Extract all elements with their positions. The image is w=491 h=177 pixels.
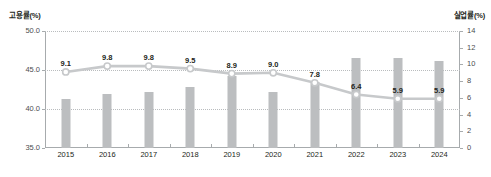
line-marker: [436, 96, 442, 102]
line-marker: [146, 63, 152, 69]
x-axis-label: 2017: [140, 150, 157, 159]
line-marker: [63, 69, 69, 75]
line-point-label: 8.9: [227, 61, 237, 69]
chart-container: 고용률(%) 실업률(%) 50.045.040.035.0 141210864…: [0, 0, 491, 177]
right-axis-tickmark: [460, 131, 463, 132]
right-axis-tickmark: [460, 31, 463, 32]
right-axis-tickmark: [460, 64, 463, 65]
right-axis-tickmark: [460, 115, 463, 116]
x-axis-label: 2022: [348, 150, 365, 159]
right-axis-tickmark: [460, 98, 463, 99]
line-point-label: 7.8: [310, 70, 320, 78]
right-axis-tickmark: [460, 148, 463, 149]
x-axis-label: 2016: [99, 150, 116, 159]
left-axis-tick-label: 40.0: [25, 105, 40, 113]
left-axis-tickmark: [42, 148, 45, 149]
right-axis-tickmark: [460, 48, 463, 49]
right-axis-title: 실업률(%): [454, 9, 485, 20]
line-path: [66, 66, 440, 99]
line-marker: [104, 63, 110, 69]
x-axis-label: 2019: [223, 150, 240, 159]
right-axis-tick-label: 0: [467, 144, 471, 152]
x-axis-tickmark: [419, 144, 420, 148]
x-axis-label: 2023: [389, 150, 406, 159]
right-axis-tick-label: 4: [467, 111, 471, 119]
x-axis-tickmark: [128, 144, 129, 148]
line-marker: [270, 70, 276, 76]
x-axis-label: 2015: [57, 150, 74, 159]
line-point-label: 9.8: [102, 54, 112, 62]
x-axis-label: 2018: [182, 150, 199, 159]
x-axis-tickmark: [253, 144, 254, 148]
x-axis-label: 2021: [306, 150, 323, 159]
x-axis-label: 2020: [265, 150, 282, 159]
line-marker: [229, 71, 235, 77]
right-axis-tick-label: 2: [467, 127, 471, 135]
x-axis-tickmark: [87, 144, 88, 148]
right-axis-tick-label: 12: [467, 44, 475, 52]
right-axis-tick-label: 14: [467, 27, 475, 35]
right-axis-tick-label: 8: [467, 77, 471, 85]
line-point-label: 9.5: [185, 56, 195, 64]
line-marker: [312, 80, 318, 86]
x-axis-labels: 2015201620172018201920202021202220232024: [45, 150, 460, 164]
line-marker: [187, 66, 193, 72]
left-axis-tick-label: 45.0: [25, 66, 40, 74]
x-axis-tickmark: [294, 144, 295, 148]
left-axis-title: 고용률(%): [9, 9, 40, 20]
x-axis-tickmark: [211, 144, 212, 148]
line-point-label: 9.1: [61, 59, 71, 67]
x-axis-tickmark: [377, 144, 378, 148]
line-point-label: 5.9: [393, 86, 403, 94]
line-point-label: 9.8: [144, 54, 154, 62]
line-point-label: 5.9: [434, 86, 444, 94]
line-point-label: 9.0: [268, 60, 278, 68]
left-axis-tick-label: 50.0: [25, 27, 40, 35]
line-marker: [353, 91, 359, 97]
left-axis-tick-label: 35.0: [25, 144, 40, 152]
x-axis-label: 2024: [431, 150, 448, 159]
right-axis-tickmark: [460, 81, 463, 82]
right-axis-tick-label: 6: [467, 94, 471, 102]
plot-area: 50.045.040.035.0 14121086420 9.19.89.89.…: [45, 31, 460, 148]
line-marker: [395, 96, 401, 102]
line-point-label: 6.4: [351, 82, 361, 90]
x-axis-tickmark: [336, 144, 337, 148]
right-axis-tick-label: 10: [467, 60, 475, 68]
x-axis-tickmark: [170, 144, 171, 148]
